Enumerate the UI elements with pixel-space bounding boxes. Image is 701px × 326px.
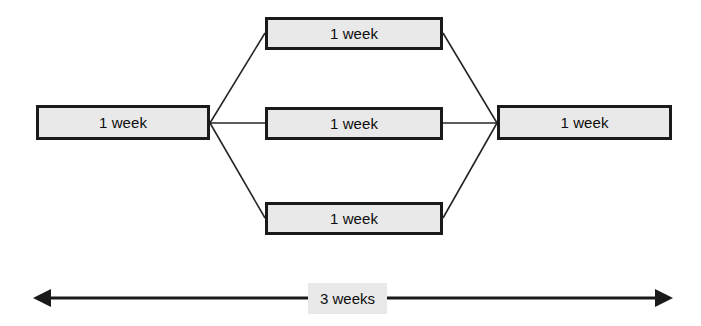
task-label-end: 1 week: [560, 115, 608, 130]
task-box-parallel-bottom[interactable]: 1 week: [265, 202, 443, 235]
task-label-start: 1 week: [99, 115, 147, 130]
span-arrowhead-left: [33, 289, 51, 307]
task-label-parallel-middle: 1 week: [330, 116, 378, 131]
task-box-end[interactable]: 1 week: [497, 105, 672, 140]
task-label-parallel-top: 1 week: [330, 26, 378, 41]
task-box-parallel-top[interactable]: 1 week: [265, 17, 443, 50]
task-label-parallel-bottom: 1 week: [330, 211, 378, 226]
duration-span-label: 3 weeks: [320, 291, 375, 306]
diagram-canvas: 1 week 1 week 1 week 1 week 1 week 3 wee…: [0, 0, 701, 326]
task-box-parallel-middle[interactable]: 1 week: [265, 107, 443, 140]
span-arrowhead-right: [655, 289, 673, 307]
duration-span-label-box: 3 weeks: [308, 283, 387, 314]
task-box-start[interactable]: 1 week: [36, 105, 210, 140]
